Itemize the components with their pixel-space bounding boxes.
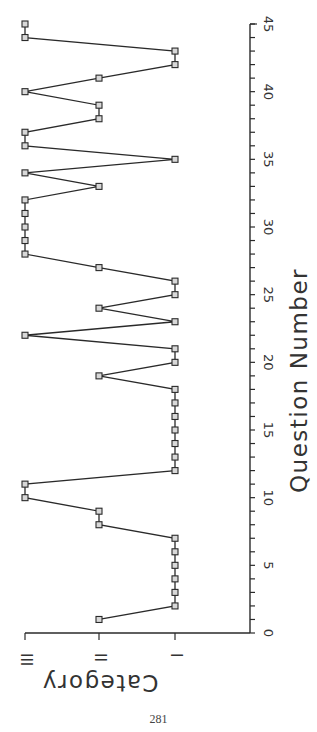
x-tick-label-group: 20 [261,354,276,371]
data-series [22,21,178,622]
x-tick-label: 45 [261,16,276,33]
x-tick-label: 0 [261,629,276,637]
square-marker-icon [172,292,178,298]
square-marker-icon [172,589,178,595]
x-tick-label: 35 [261,151,276,168]
square-marker-icon [172,413,178,419]
square-marker-icon [172,535,178,541]
x-tick-label-group: 40 [261,83,276,100]
x-tick-label-group: 45 [261,16,276,33]
x-tick-label: 10 [261,489,276,506]
square-marker-icon [22,143,28,149]
chart-axes: 051015202530354045IIIIIIQuestion NumberC… [17,16,312,696]
square-marker-icon [172,562,178,568]
square-marker-icon [172,549,178,555]
square-marker-icon [22,332,28,338]
x-tick-label-group: 10 [261,489,276,506]
y-tick-label-group: II [91,653,109,662]
square-marker-icon [172,576,178,582]
square-marker-icon [172,156,178,162]
y-axis-title: Category [41,670,158,696]
x-tick-label: 20 [261,354,276,371]
x-axis-title: Question Number [286,268,312,493]
y-tick-label: III [17,653,35,666]
square-marker-icon [172,359,178,365]
square-marker-icon [22,170,28,176]
square-marker-icon [22,224,28,230]
square-marker-icon [96,305,102,311]
square-marker-icon [172,441,178,447]
x-tick-label: 30 [261,219,276,236]
x-tick-label: 40 [261,83,276,100]
y-tick-label: II [91,653,109,662]
square-marker-icon [22,35,28,41]
square-marker-icon [96,508,102,514]
x-tick-label-group: 25 [261,286,276,303]
x-tick-label-group: 5 [261,561,276,569]
square-marker-icon [172,278,178,284]
square-marker-icon [22,129,28,135]
square-marker-icon [22,210,28,216]
y-tick-label-group: I [167,653,185,657]
square-marker-icon [172,386,178,392]
square-marker-icon [22,21,28,27]
page-number: 281 [0,712,317,727]
square-marker-icon [96,116,102,122]
x-tick-label-group: 30 [261,219,276,236]
square-marker-icon [96,265,102,271]
x-tick-label-group: 0 [261,629,276,637]
square-marker-icon [172,48,178,54]
y-tick-label-group: III [17,653,35,666]
square-marker-icon [172,62,178,68]
square-marker-icon [22,238,28,244]
x-axis-title-group: Question Number [286,268,312,493]
square-marker-icon [172,454,178,460]
category-line-chart: 051015202530354045IIIIIIQuestion NumberC… [0,0,317,732]
square-marker-icon [96,522,102,528]
y-tick-label: I [167,653,185,657]
square-marker-icon [96,373,102,379]
square-marker-icon [172,468,178,474]
square-marker-icon [22,251,28,257]
square-marker-icon [172,427,178,433]
square-marker-icon [22,89,28,95]
x-tick-label-group: 15 [261,422,276,439]
square-marker-icon [172,319,178,325]
square-marker-icon [96,616,102,622]
x-tick-label-group: 35 [261,151,276,168]
x-tick-label: 5 [261,561,276,569]
x-tick-label: 15 [261,422,276,439]
y-axis-title-group: Category [41,670,158,696]
x-tick-label: 25 [261,286,276,303]
square-marker-icon [22,197,28,203]
square-marker-icon [22,495,28,501]
square-marker-icon [172,400,178,406]
square-marker-icon [172,603,178,609]
square-marker-icon [22,481,28,487]
square-marker-icon [96,183,102,189]
square-marker-icon [172,346,178,352]
square-marker-icon [96,102,102,108]
square-marker-icon [96,75,102,81]
series-line [25,24,175,619]
